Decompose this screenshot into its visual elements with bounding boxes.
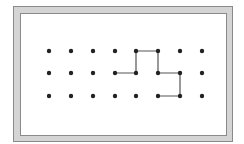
grid-dot-r2-c1 — [69, 94, 73, 98]
dot-grid-board — [0, 0, 244, 144]
grid-dot-r0-c5 — [156, 49, 160, 53]
grid-dot-r2-c2 — [91, 94, 95, 98]
grid-dot-r2-c0 — [47, 94, 51, 98]
grid-dot-r2-c4 — [134, 94, 138, 98]
grid-dot-r2-c7 — [200, 94, 204, 98]
grid-dot-r1-c7 — [200, 71, 204, 75]
grid-dot-r2-c6 — [178, 94, 182, 98]
grid-dot-r0-c0 — [47, 49, 51, 53]
path-line — [115, 51, 180, 96]
grid-dot-r0-c7 — [200, 49, 204, 53]
grid-dot-r1-c4 — [134, 71, 138, 75]
grid-dot-r1-c2 — [91, 71, 95, 75]
grid-dot-r1-c6 — [178, 71, 182, 75]
grid-dot-r0-c6 — [178, 49, 182, 53]
grid-dot-r0-c3 — [113, 49, 117, 53]
grid-dot-r0-c4 — [134, 49, 138, 53]
grid-dot-r2-c3 — [113, 94, 117, 98]
grid-dot-r1-c3 — [113, 71, 117, 75]
grid-dot-r1-c5 — [156, 71, 160, 75]
connecting-path — [115, 51, 180, 96]
grid-dot-r1-c1 — [69, 71, 73, 75]
grid-dot-r0-c2 — [91, 49, 95, 53]
grid-dot-r1-c0 — [47, 71, 51, 75]
grid-dot-r0-c1 — [69, 49, 73, 53]
grid-dot-r2-c5 — [156, 94, 160, 98]
